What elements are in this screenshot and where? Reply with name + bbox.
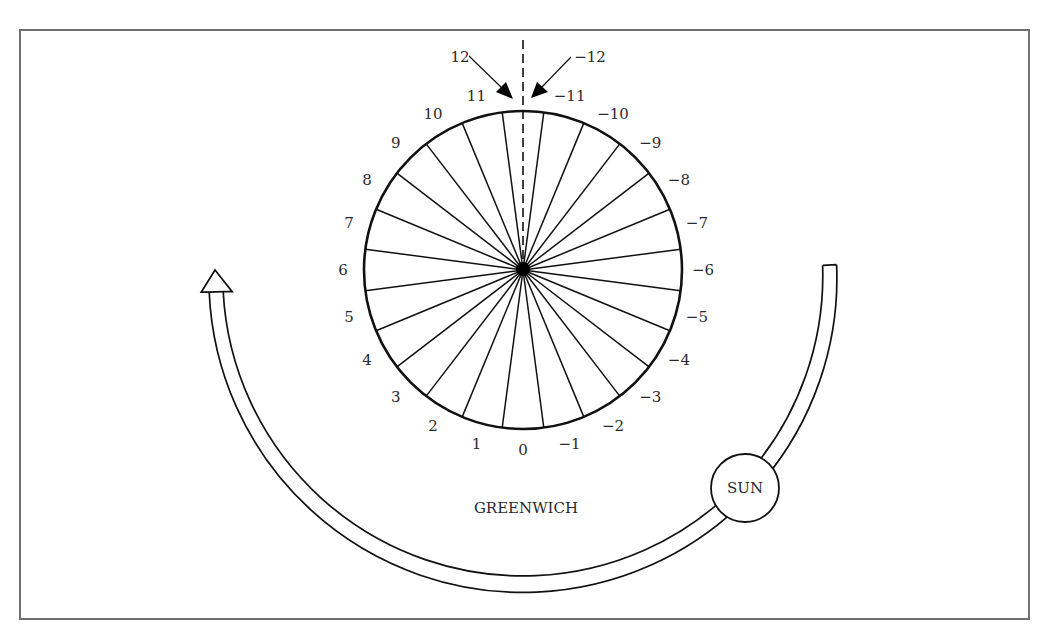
pointer-minus12-shaft <box>541 57 571 88</box>
label-8: 8 <box>362 171 372 189</box>
pointer-12-shaft <box>469 56 503 89</box>
label-9: 9 <box>391 134 401 152</box>
label-minus-3: −3 <box>639 388 661 406</box>
label-minus-1: −1 <box>559 435 581 453</box>
label-minus-9: −9 <box>639 134 661 152</box>
label-0: 0 <box>518 441 528 459</box>
label-10: 10 <box>423 105 442 123</box>
label-7: 7 <box>344 214 354 232</box>
label-12: 12 <box>450 48 469 66</box>
greenwich-label: GREENWICH <box>474 499 578 517</box>
label-minus-12: −12 <box>574 48 606 66</box>
label-4: 4 <box>362 351 372 369</box>
label-minus-7: −7 <box>686 214 708 232</box>
label-11: 11 <box>467 87 486 105</box>
arrow-down-left-icon <box>531 82 548 98</box>
label-minus-11: −11 <box>554 87 586 105</box>
dial-hub <box>516 262 530 276</box>
label-minus-8: −8 <box>668 171 690 189</box>
label-minus-10: −10 <box>597 105 629 123</box>
label-6: 6 <box>338 261 348 279</box>
arrow-up-icon <box>201 270 232 292</box>
time-zone-diagram: 12 −12 01234567891011−1−2−3−4−5−6−7−8−9−… <box>0 0 1043 631</box>
label-minus-4: −4 <box>668 351 690 369</box>
label-3: 3 <box>391 388 401 406</box>
label-minus-2: −2 <box>602 417 624 435</box>
label-minus-5: −5 <box>686 308 708 326</box>
label-minus-6: −6 <box>692 261 714 279</box>
sun-label: SUN <box>727 479 763 497</box>
label-5: 5 <box>344 308 354 326</box>
label-2: 2 <box>428 417 438 435</box>
label-1: 1 <box>472 435 482 453</box>
